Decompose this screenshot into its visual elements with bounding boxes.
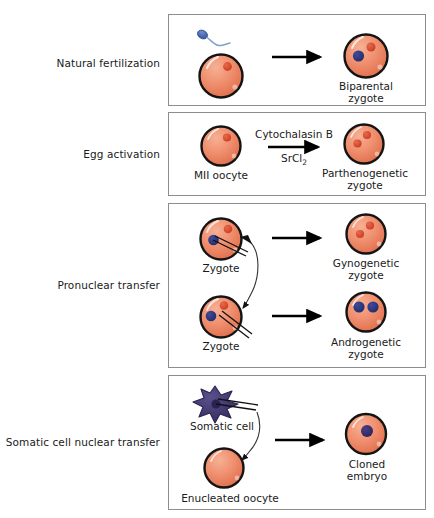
caption-parthenogenetic-zygote: Parthenogenetic zygote [322, 167, 408, 191]
caption-cloned-embryo: Cloned embryo [334, 458, 400, 482]
caption-somatic-cell: Somatic cell [179, 420, 265, 432]
row-label-somatic-cell-nuclear-transfer: Somatic cell nuclear transfer [0, 436, 160, 449]
caption-line1: Cloned [334, 458, 400, 470]
caption-androgenetic-zygote: Androgenetic zygote [324, 336, 408, 360]
row-label-egg-activation: Egg activation [0, 148, 160, 161]
row-label-natural-fertilization: Natural fertilization [0, 57, 160, 70]
caption-mii-oocyte: MII oocyte [181, 169, 261, 181]
caption-donor-zygote: Zygote [186, 262, 256, 274]
row-label-pronuclear-transfer: Pronuclear transfer [0, 279, 160, 292]
figure-root: Natural fertilization Egg activation Pro… [0, 0, 434, 518]
caption-line2: zygote [322, 179, 408, 191]
caption-recipient-zygote: Zygote [186, 340, 256, 352]
caption-line1: Parthenogenetic [322, 167, 408, 179]
caption-line2: zygote [324, 348, 408, 360]
panel-somatic-cell-nuclear-transfer [168, 375, 426, 510]
caption-line1: Androgenetic [324, 336, 408, 348]
reagent-above-egg-activation: Cytochalasin B [249, 128, 339, 140]
caption-line1: Biparental [327, 80, 405, 92]
caption-line2: embryo [334, 470, 400, 482]
reagent-below-egg-activation: SrCl2 [249, 152, 339, 168]
reagent-formula-subscript: 2 [302, 158, 307, 167]
caption-biparental-zygote: Biparental zygote [327, 80, 405, 104]
caption-line2: zygote [326, 269, 406, 281]
reagent-formula-text: SrCl [281, 152, 302, 164]
caption-line2: zygote [327, 92, 405, 104]
caption-line1: Gynogenetic [326, 257, 406, 269]
caption-enucleated-oocyte: Enucleated oocyte [175, 492, 285, 504]
caption-gynogenetic-zygote: Gynogenetic zygote [326, 257, 406, 281]
